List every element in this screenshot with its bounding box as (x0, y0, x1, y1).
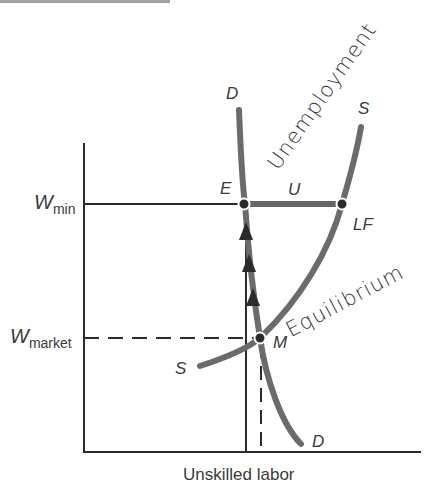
supply-label-bottom: S (175, 359, 186, 379)
w-min-subscript: min (53, 201, 76, 217)
point-lf (337, 199, 348, 210)
supply-label-top: S (358, 99, 369, 119)
w-min-base: W (34, 191, 53, 213)
point-u-label: U (288, 180, 300, 200)
point-lf-label: LF (353, 215, 373, 235)
point-m-label: M (273, 333, 287, 353)
point-m (255, 333, 266, 344)
labor-market-diagram (0, 0, 438, 487)
w-min-label: Wmin (34, 191, 75, 217)
w-market-label: Wmarket (10, 325, 72, 351)
point-e (239, 199, 250, 210)
x-axis-label: Unskilled labor (183, 465, 295, 485)
point-e-label: E (220, 179, 231, 199)
arrow-up-icon (242, 254, 256, 272)
demand-label-top: D (226, 84, 238, 104)
movement-arrows (239, 222, 260, 306)
arrow-up-icon (246, 288, 260, 306)
w-market-base: W (10, 325, 29, 347)
demand-label-bottom: D (312, 432, 324, 452)
arrow-up-icon (239, 222, 253, 240)
w-market-subscript: market (29, 335, 72, 351)
